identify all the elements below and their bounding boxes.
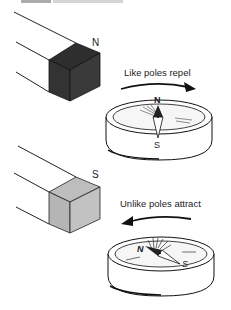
compass-repel: N S [106,95,212,160]
compass-north-label: N [154,95,161,105]
compass-attract: N S [108,237,214,296]
arrow-left-icon [121,216,191,226]
caption-like-poles: Like poles repel [124,67,191,78]
magnet-compass-diagram: N Like poles repel N S S [0,0,231,310]
magnet-pole-label: S [92,169,99,180]
magnet-pole-label: N [92,37,99,48]
bar-magnet-south: S [14,146,100,233]
header-fragment [21,0,123,3]
arrow-right-icon [121,82,196,92]
compass-south-label: S [182,259,188,269]
caption-unlike-poles: Unlike poles attract [120,198,201,209]
bar-magnet-north: N [14,12,100,101]
compass-north-label: N [137,244,144,254]
compass-south-label: S [154,140,160,150]
